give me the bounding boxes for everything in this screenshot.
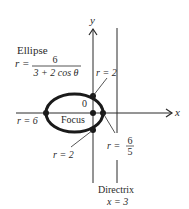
focus-point: [90, 110, 96, 116]
svg-text:5: 5: [128, 146, 133, 157]
origin-label: 0: [82, 98, 87, 109]
ellipse-title: Ellipse: [17, 44, 48, 56]
svg-text:6: 6: [128, 135, 133, 146]
r-right-label: r = 6 5: [107, 135, 134, 157]
r-top-label: r = 2: [96, 67, 117, 78]
r-bottom-label: r = 2: [53, 149, 74, 160]
left-vertex-point: [43, 110, 49, 116]
r-left-label: r = 6: [17, 115, 38, 126]
x-axis-label: x: [174, 106, 180, 118]
directrix-label: Directrix: [98, 184, 134, 195]
ellipse-equation-numerator: 6: [53, 54, 58, 65]
ellipse-equation-denominator: 3 + 2 cos θ: [33, 67, 79, 78]
directrix-equation: x = 3: [106, 196, 128, 207]
focus-label: Focus: [61, 114, 85, 125]
y-axis-label: y: [89, 14, 95, 26]
ellipse-equation-lhs: r =: [15, 57, 29, 69]
polar-ellipse-diagram: x y Ellipse r = 6 3 + 2 cos θ 0 Focus r …: [0, 0, 189, 209]
x-axis: x: [16, 106, 180, 118]
svg-text:r =: r =: [107, 140, 120, 151]
